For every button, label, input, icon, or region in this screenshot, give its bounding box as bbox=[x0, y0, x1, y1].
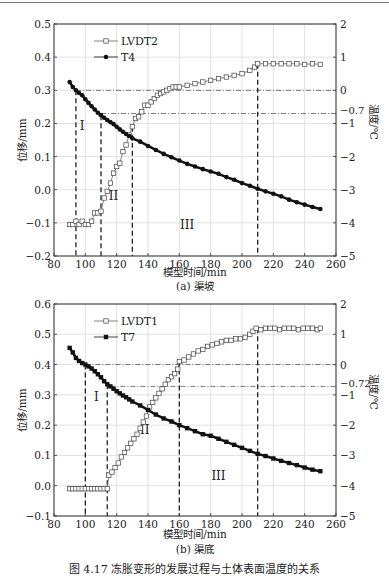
marker-filled-square bbox=[201, 432, 205, 436]
marker-filled-square bbox=[248, 449, 252, 453]
marker-filled-circle bbox=[240, 181, 245, 186]
marker-open-square bbox=[187, 355, 191, 359]
y-tick-label: 0.4 bbox=[34, 359, 51, 371]
legend-label-temp: T4 bbox=[121, 51, 135, 64]
marker-open-square bbox=[130, 125, 134, 129]
marker-filled-circle bbox=[263, 189, 268, 194]
x-axis-title: 模型时间/min bbox=[163, 266, 227, 278]
marker-open-square bbox=[191, 352, 195, 356]
marker-filled-circle bbox=[302, 202, 307, 207]
marker-open-square bbox=[118, 161, 122, 165]
marker-open-square bbox=[301, 326, 305, 330]
marker-filled-square bbox=[295, 463, 299, 467]
marker-open-square bbox=[248, 68, 252, 72]
y-tick-label: 0.5 bbox=[34, 328, 51, 340]
figure-canvas: IIIIII80100120140160180200220240260−0.2−… bbox=[0, 0, 389, 576]
marker-open-square bbox=[124, 143, 128, 147]
x-tick-label: 220 bbox=[263, 258, 283, 270]
marker-open-square bbox=[259, 328, 263, 332]
plot-frame bbox=[54, 24, 336, 256]
marker-filled-square bbox=[193, 429, 197, 433]
marker-open-square bbox=[205, 344, 209, 348]
marker-filled-circle bbox=[287, 197, 292, 202]
x-tick-label: 140 bbox=[138, 258, 158, 270]
y-tick-label: −0.1 bbox=[26, 510, 52, 522]
legend-marker-open-square bbox=[104, 319, 108, 323]
marker-open-square bbox=[89, 219, 93, 223]
marker-open-square bbox=[157, 391, 161, 395]
reference-line-label: −0.7 bbox=[340, 105, 364, 116]
marker-open-square bbox=[182, 358, 186, 362]
y-tick-label: 0.6 bbox=[34, 298, 51, 310]
marker-filled-circle bbox=[318, 207, 323, 212]
marker-open-square bbox=[172, 371, 176, 375]
marker-filled-circle bbox=[271, 191, 276, 196]
y2-tick-label: −1 bbox=[340, 117, 355, 129]
marker-filled-square bbox=[146, 408, 150, 412]
marker-open-square bbox=[176, 367, 180, 371]
marker-open-square bbox=[224, 338, 228, 342]
marker-open-square bbox=[232, 73, 236, 77]
legend-marker-filled-circle bbox=[104, 55, 109, 60]
marker-filled-circle bbox=[279, 194, 284, 199]
marker-open-square bbox=[151, 400, 155, 404]
marker-open-square bbox=[271, 62, 275, 66]
marker-filled-square bbox=[224, 440, 228, 444]
marker-filled-square bbox=[232, 443, 236, 447]
marker-filled-circle bbox=[67, 80, 72, 85]
marker-open-square bbox=[135, 432, 139, 436]
y2-tick-label: −4 bbox=[340, 480, 356, 492]
marker-open-square bbox=[111, 171, 115, 175]
marker-filled-square bbox=[271, 456, 275, 460]
y2-tick-label: −1 bbox=[340, 389, 355, 401]
marker-open-square bbox=[193, 81, 197, 85]
marker-open-square bbox=[296, 328, 300, 332]
marker-open-square bbox=[163, 382, 167, 386]
y-tick-label: −0.2 bbox=[26, 250, 52, 262]
marker-open-square bbox=[208, 78, 212, 82]
legend-marker-open-square bbox=[104, 39, 108, 43]
reference-line-label: −0.72 bbox=[340, 378, 371, 389]
marker-open-square bbox=[138, 426, 142, 430]
marker-open-square bbox=[210, 343, 214, 347]
y2-tick-label: 0 bbox=[340, 359, 347, 371]
y2-tick-label: −5 bbox=[340, 250, 355, 262]
phase-label: I bbox=[80, 119, 85, 133]
phase-label: III bbox=[211, 469, 225, 483]
marker-filled-square bbox=[185, 426, 189, 430]
y2-tick-label: 2 bbox=[340, 18, 347, 30]
marker-filled-circle bbox=[216, 172, 221, 177]
marker-filled-square bbox=[302, 465, 306, 469]
marker-filled-square bbox=[67, 346, 71, 350]
chart-a: IIIIII80100120140160180200220240260−0.2−… bbox=[16, 18, 380, 292]
marker-open-square bbox=[292, 326, 296, 330]
phase-label: III bbox=[180, 218, 194, 232]
marker-open-square bbox=[185, 83, 189, 87]
marker-filled-square bbox=[310, 467, 314, 471]
marker-open-square bbox=[287, 326, 291, 330]
subplot-caption: (a) 渠坡 bbox=[176, 280, 215, 292]
marker-open-square bbox=[110, 470, 114, 474]
marker-filled-circle bbox=[80, 93, 85, 98]
y-tick-label: −0.1 bbox=[26, 217, 52, 229]
y2-tick-label: −3 bbox=[340, 449, 355, 461]
y-tick-label: 0.3 bbox=[34, 389, 51, 401]
marker-open-square bbox=[144, 414, 148, 418]
y2-tick-label: 1 bbox=[340, 51, 347, 63]
marker-filled-circle bbox=[310, 205, 315, 210]
marker-open-square bbox=[99, 209, 103, 213]
y-tick-label: 0.4 bbox=[34, 51, 51, 63]
phase-label: II bbox=[109, 189, 119, 203]
marker-open-square bbox=[318, 62, 322, 66]
y2-tick-label: 1 bbox=[340, 328, 347, 340]
marker-open-square bbox=[196, 349, 200, 353]
marker-open-square bbox=[310, 326, 314, 330]
y2-axis-title: 温度/℃ bbox=[368, 374, 380, 410]
marker-open-square bbox=[306, 326, 310, 330]
x-tick-label: 220 bbox=[263, 518, 283, 530]
marker-filled-circle bbox=[138, 139, 143, 144]
marker-open-square bbox=[216, 76, 220, 80]
marker-open-square bbox=[224, 75, 228, 79]
marker-filled-square bbox=[208, 434, 212, 438]
marker-open-square bbox=[160, 387, 164, 391]
